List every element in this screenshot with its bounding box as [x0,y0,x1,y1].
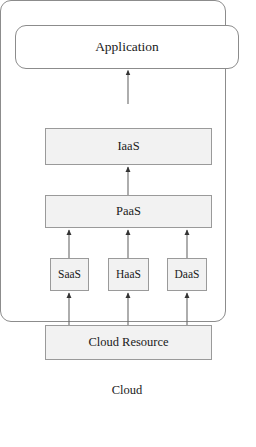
cloud-architecture-diagram: Application IaaS PaaS SaaS HaaS DaaS Clo… [0,0,256,447]
node-daas-label: DaaS [175,268,200,281]
node-cloud-resource: Cloud Resource [45,325,212,360]
node-saas: SaaS [50,258,89,291]
node-saas-label: SaaS [58,268,81,281]
node-paas: PaaS [45,195,212,228]
node-daas: DaaS [167,258,207,291]
node-cloud-container-label: Cloud [15,383,239,398]
node-iaas-label: IaaS [117,140,139,154]
node-paas-label: PaaS [116,205,141,219]
node-iaas: IaaS [45,128,212,165]
node-haas-label: HaaS [116,268,141,281]
node-haas: HaaS [108,258,149,291]
node-cloud-resource-label: Cloud Resource [88,336,168,350]
node-application: Application [15,25,239,69]
node-application-label: Application [95,40,159,55]
